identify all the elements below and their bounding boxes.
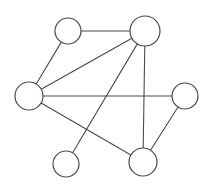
graph-edge <box>41 38 132 89</box>
graph-edge <box>36 42 61 84</box>
graph-node-n5 <box>53 151 79 177</box>
graph-edge <box>73 44 138 153</box>
graph-node-n1 <box>55 18 81 44</box>
edge-layer <box>36 31 178 155</box>
graph-svg <box>0 0 210 187</box>
graph-edge <box>41 103 131 155</box>
graph-diagram-canvas <box>0 0 210 187</box>
graph-edge <box>151 107 179 150</box>
graph-edge <box>143 46 145 148</box>
graph-node-n3 <box>15 82 43 110</box>
graph-node-n6 <box>129 148 157 176</box>
graph-node-n2 <box>130 16 160 46</box>
graph-node-n4 <box>172 83 198 109</box>
